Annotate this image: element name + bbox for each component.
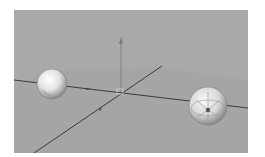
scene-canvas[interactable] xyxy=(14,10,248,153)
y-axis-arrow-icon xyxy=(119,37,123,44)
3d-viewport[interactable] xyxy=(14,10,248,153)
sphere-right[interactable] xyxy=(189,87,227,125)
sphere-left[interactable] xyxy=(37,69,67,99)
